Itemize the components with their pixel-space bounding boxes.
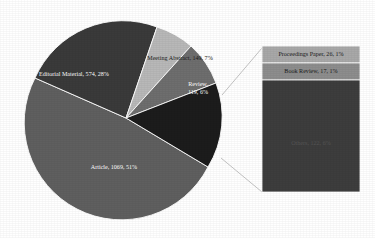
- bar-label-book-review: Book Review, 17, 1%: [284, 68, 337, 74]
- pie-label-review-line2: 119, 6%: [188, 89, 208, 95]
- bar-of-pie-chart: Editorial Material, 574, 28% Article, 10…: [0, 0, 375, 238]
- chart-canvas: Editorial Material, 574, 28% Article, 10…: [0, 0, 375, 238]
- pie-label-editorial-material: Editorial Material, 574, 28%: [39, 71, 109, 77]
- pie-label-article: Article, 1069, 51%: [91, 164, 137, 170]
- connector-line-top: [222, 48, 262, 95]
- bar-label-proceedings-paper: Proceedings Paper, 26, 1%: [278, 51, 343, 57]
- bar-label-others: Others, 122, 6%: [291, 140, 331, 146]
- bar-segment-others[interactable]: [262, 80, 360, 192]
- connector-line-bottom: [221, 158, 262, 192]
- pie-label-review-line1: Review,: [188, 81, 208, 87]
- pie-label-meeting-abstract: Meeting Abstract, 149, 7%: [147, 55, 213, 61]
- pie-group: [24, 21, 222, 220]
